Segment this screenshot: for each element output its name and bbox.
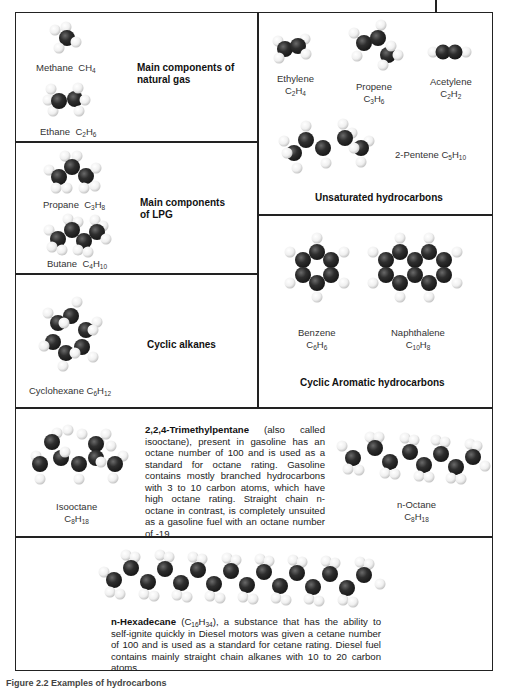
cyclic-alkanes-heading: Cyclic alkanes <box>147 339 216 351</box>
benzene-label: Benzene C6H6 <box>298 327 336 351</box>
unsaturated-heading: Unsaturated hydrocarbons <box>315 192 443 204</box>
propane-label: Propane C3H8 <box>43 199 105 211</box>
isooctane-molecule-icon <box>22 422 137 494</box>
aromatic-heading: Cyclic Aromatic hydrocarbons <box>300 377 445 389</box>
ethane-molecule-icon <box>42 80 97 122</box>
divider-upper-octane <box>15 407 493 409</box>
methane-label: Methane CH4 <box>36 62 96 74</box>
naphthalene-molecule-icon <box>366 230 466 306</box>
n-octane-molecule-icon <box>333 430 483 486</box>
cyclohexane-molecule-icon <box>35 296 110 376</box>
ethane-label: Ethane C2H6 <box>40 126 96 138</box>
divider-natural-gas-lpg <box>15 141 258 143</box>
isooctane-label: Isooctane C8H18 <box>56 501 97 525</box>
butane-molecule-icon <box>40 212 115 258</box>
pentene-molecule-icon <box>275 118 385 180</box>
methane-molecule-icon <box>45 20 90 60</box>
natural-gas-heading: Main components of natural gas <box>137 62 234 86</box>
propane-molecule-icon <box>40 150 105 198</box>
top-tick-line <box>435 0 437 13</box>
naphthalene-label: Naphthalene C10H8 <box>391 327 445 351</box>
cyclohexane-label: Cyclohexane C6H12 <box>29 385 111 397</box>
ethylene-molecule-icon <box>270 32 318 66</box>
divider-unsaturated-aromatic <box>257 214 493 216</box>
n-octane-label: n-Octane C8H18 <box>397 499 436 523</box>
hexadecane-chain <box>99 550 386 608</box>
divider-lpg-cyclic <box>15 273 258 275</box>
lpg-heading: Main components of LPG <box>140 197 225 221</box>
acetylene-label: Acetylene C2H2 <box>430 76 472 100</box>
figure-caption: Figure 2.2 Examples of hydrocarbons <box>6 678 167 688</box>
column-divider <box>257 12 259 408</box>
n-hexadecane-molecule-icon <box>96 548 391 614</box>
butane-label: Butane C4H10 <box>47 258 107 270</box>
acetylene-molecule-icon <box>426 42 476 62</box>
propene-label: Propene C3H6 <box>356 81 392 105</box>
ethylene-label: Ethylene C2H4 <box>277 73 314 97</box>
hexadecane-description: n-Hexadecane (C16H34), a substance that … <box>111 616 381 674</box>
propene-molecule-icon <box>345 18 407 74</box>
pentene-label: 2-Pentene C5H10 <box>395 149 466 161</box>
isooctane-description: 2,2,4-Trimethylpentane (also called isoo… <box>145 424 325 539</box>
benzene-molecule-icon <box>282 230 352 306</box>
